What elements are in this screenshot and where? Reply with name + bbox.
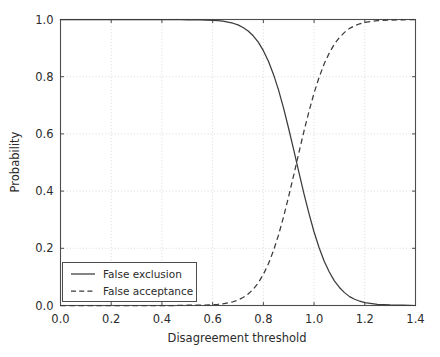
legend-label-false-acceptance: False acceptance <box>103 285 193 297</box>
y-tick-label: 0.4 <box>35 184 53 198</box>
figure-canvas: 0.00.20.40.60.81.01.21.4 0.00.20.40.60.8… <box>0 0 440 357</box>
chart-legend: False exclusion False acceptance <box>63 263 197 302</box>
y-tick-label: 1.0 <box>35 13 53 27</box>
x-tick-label: 0.4 <box>153 312 171 326</box>
x-tick-labels: 0.00.20.40.60.81.01.21.4 <box>51 312 424 326</box>
x-tick-label: 1.4 <box>406 312 424 326</box>
y-tick-labels: 0.00.20.40.60.81.0 <box>35 13 53 313</box>
x-tick-label: 0.8 <box>254 312 272 326</box>
y-tick-label: 0.6 <box>35 127 53 141</box>
x-axis-label: Disagreement threshold <box>168 331 307 345</box>
x-tick-label: 0.0 <box>51 312 69 326</box>
y-axis-label: Probability <box>8 131 22 192</box>
y-tick-label: 0.8 <box>35 70 53 84</box>
x-tick-label: 0.6 <box>203 312 221 326</box>
x-tick-label: 0.2 <box>102 312 120 326</box>
chart-plot: 0.00.20.40.60.81.01.21.4 0.00.20.40.60.8… <box>0 0 440 357</box>
legend-label-false-exclusion: False exclusion <box>103 268 182 280</box>
y-tick-label: 0.0 <box>35 299 53 313</box>
x-tick-label: 1.2 <box>356 312 374 326</box>
y-tick-label: 0.2 <box>35 241 53 255</box>
x-tick-label: 1.0 <box>305 312 323 326</box>
